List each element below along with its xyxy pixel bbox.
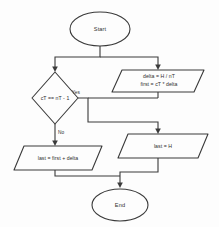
connector-start-to-delta <box>100 57 158 66</box>
arrowhead-into-delta <box>155 64 161 70</box>
node-start-label: Start <box>94 26 107 32</box>
flowchart-diagram: Start delta = H / nT first = cT * delta … <box>0 0 219 227</box>
node-last-h-label: last = H <box>154 143 172 149</box>
connector-start-to-decision <box>55 46 100 68</box>
arrowhead-into-last-h <box>155 128 161 134</box>
node-end-label: End <box>115 202 125 208</box>
arrowhead-into-last-first-delta <box>52 140 58 146</box>
connector-yes-branch <box>78 98 158 130</box>
node-delta-calc-label-line1: delta = H / nT <box>143 73 176 79</box>
arrowhead-into-decision <box>52 66 58 72</box>
branch-label-yes: Yes <box>72 90 80 95</box>
node-last-first-delta-label: last = first + delta <box>38 155 79 161</box>
flowchart-canvas: Start delta = H / nT first = cT * delta … <box>0 0 219 227</box>
node-delta-calc-label-line2: first = cT * delta <box>141 81 178 87</box>
connector-last-h-to-end <box>120 158 158 176</box>
connector-last-first-delta-to-end <box>55 170 120 176</box>
branch-label-no: No <box>58 130 64 135</box>
node-decision-label: cT == nT - 1 <box>41 95 70 101</box>
arrowhead-into-end <box>117 182 123 188</box>
